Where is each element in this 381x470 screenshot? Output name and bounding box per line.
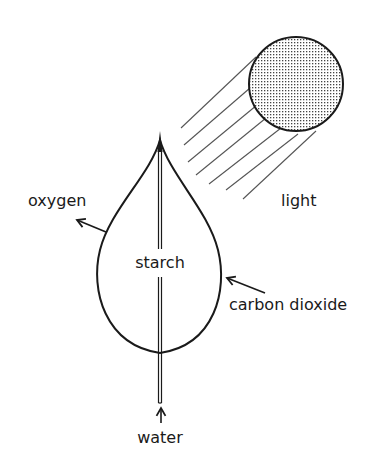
label-light: light [281, 191, 316, 210]
sun-icon [249, 37, 343, 131]
label-starch: starch [135, 253, 185, 272]
carbon-dioxide-arrow [227, 278, 265, 293]
label-carbon-dioxide: carbon dioxide [229, 295, 347, 314]
oxygen-arrow [77, 220, 106, 232]
leaf-tip [158, 131, 163, 152]
label-oxygen: oxygen [28, 191, 86, 210]
light-ray [243, 131, 316, 199]
label-water: water [137, 428, 183, 447]
midrib [159, 150, 162, 403]
photosynthesis-diagram: oxygen light starch carbon dioxide water [0, 0, 381, 470]
